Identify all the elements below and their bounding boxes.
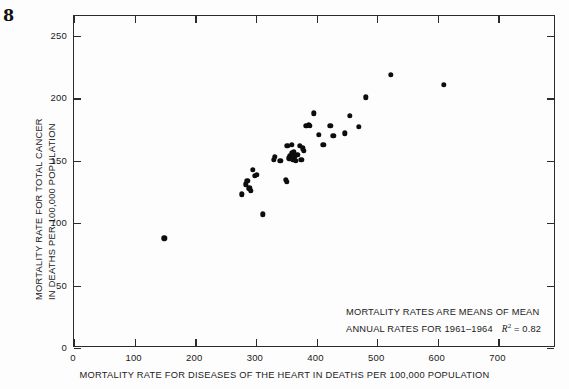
data-point — [363, 94, 368, 99]
x-axis-tick-label: 400 — [307, 352, 323, 363]
data-point — [388, 72, 393, 77]
data-point — [320, 142, 325, 147]
data-point — [248, 188, 253, 193]
figure-container: 8 MORTALITY RATE FOR TOTAL CANCER IN DEA… — [0, 0, 569, 389]
x-axis-tick — [74, 339, 75, 346]
y-axis-tick — [547, 98, 554, 99]
r-squared-value: = 0.82 — [514, 324, 541, 334]
data-point — [331, 133, 336, 138]
annotation-period: ANNUAL RATES FOR 1961–1964 — [346, 324, 493, 334]
annotation-line-1: MORTALITY RATES ARE MEANS OF MEAN — [346, 306, 541, 320]
y-axis-tick-label: 0 — [31, 342, 67, 353]
x-axis-tick-label: 700 — [489, 352, 505, 363]
y-axis-tick — [74, 36, 81, 37]
chart-annotation: MORTALITY RATES ARE MEANS OF MEAN ANNUAL… — [346, 306, 541, 336]
y-axis-tick — [74, 286, 81, 287]
plot-frame — [73, 15, 555, 347]
x-axis-title: MORTALITY RATE FOR DISEASES OF THE HEART… — [0, 370, 569, 380]
data-point — [277, 158, 282, 163]
y-axis-tick-label: 200 — [31, 92, 67, 103]
annotation-line-2: ANNUAL RATES FOR 1961–1964R2 = 0.82 — [346, 320, 541, 337]
x-axis-tick — [195, 16, 196, 23]
x-axis-tick — [438, 339, 439, 346]
y-axis-tick — [547, 286, 554, 287]
x-axis-tick — [438, 16, 439, 23]
data-point — [316, 132, 321, 137]
x-axis-tick-label: 0 — [70, 352, 75, 363]
data-point — [299, 157, 304, 162]
data-point — [311, 111, 316, 116]
data-point — [289, 142, 294, 147]
x-axis-tick — [135, 16, 136, 23]
figure-number: 8 — [3, 8, 14, 24]
data-point — [239, 192, 244, 197]
x-axis-tick-label: 600 — [429, 352, 445, 363]
data-point — [342, 131, 347, 136]
data-point — [284, 179, 289, 184]
plot-area — [74, 16, 554, 346]
y-axis-title-line2: IN DEATHS PER 100,000 POPULATION — [47, 123, 57, 300]
y-axis-tick-label: 50 — [31, 279, 67, 290]
r-exponent: 2 — [508, 322, 512, 330]
y-axis-title-line1: MORTALITY RATE FOR TOTAL CANCER — [34, 118, 44, 300]
y-axis-tick — [547, 223, 554, 224]
x-axis-tick — [195, 339, 196, 346]
x-axis-tick-label: 100 — [125, 352, 141, 363]
x-axis-tick — [135, 339, 136, 346]
y-axis-tick — [74, 161, 81, 162]
x-axis-tick — [498, 16, 499, 23]
x-axis-tick — [74, 16, 75, 23]
x-axis-tick — [317, 16, 318, 23]
y-axis-tick — [547, 36, 554, 37]
x-axis-tick — [256, 16, 257, 23]
data-point — [441, 82, 446, 87]
x-axis-tick — [317, 339, 318, 346]
y-axis-tick — [547, 161, 554, 162]
x-axis-tick-label: 300 — [247, 352, 263, 363]
data-point — [356, 124, 361, 129]
data-point — [347, 113, 352, 118]
data-point — [301, 148, 306, 153]
y-axis-tick — [74, 223, 81, 224]
y-axis-tick-label: 100 — [31, 217, 67, 228]
data-point — [307, 123, 312, 128]
y-axis-tick — [74, 98, 81, 99]
y-axis-tick-label: 250 — [31, 29, 67, 40]
data-point — [162, 235, 167, 240]
y-axis-tick — [74, 348, 81, 349]
y-axis-tick-label: 150 — [31, 154, 67, 165]
x-axis-tick — [377, 339, 378, 346]
data-point — [328, 123, 333, 128]
x-axis-tick-label: 200 — [186, 352, 202, 363]
x-axis-tick-label: 500 — [368, 352, 384, 363]
r-squared-label: R2 = 0.82 — [493, 324, 541, 334]
data-point — [245, 178, 250, 183]
x-axis-tick — [377, 16, 378, 23]
data-point — [254, 172, 259, 177]
x-axis-tick — [256, 339, 257, 346]
data-point — [260, 212, 265, 217]
y-axis-tick — [547, 348, 554, 349]
x-axis-tick — [498, 339, 499, 346]
